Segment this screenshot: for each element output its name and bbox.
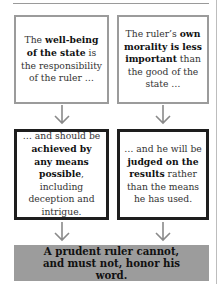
premise-box-morality: The ruler’s own morality is less importa… <box>117 15 209 104</box>
top-divider-line <box>13 3 209 4</box>
right-divider-line <box>216 0 217 284</box>
arrow-down-icon <box>155 222 171 242</box>
consequence-text-means: … and should be achieved by any means po… <box>17 130 106 218</box>
premise-text-wellbeing: The well-being of the state is the respo… <box>16 34 107 84</box>
consequence-box-means: … and should be achieved by any means po… <box>14 129 109 220</box>
premise-box-wellbeing: The well-being of the state is the respo… <box>14 15 109 104</box>
consequence-text-results: … and he will be judged on the results r… <box>120 143 206 206</box>
premise-text-morality: The ruler’s own morality is less importa… <box>119 28 207 91</box>
consequence-box-results: … and he will be judged on the results r… <box>117 129 209 220</box>
arrow-down-icon <box>155 105 171 125</box>
conclusion-box: A prudent ruler cannot, and must not, ho… <box>14 245 209 281</box>
arrow-down-icon <box>54 222 70 242</box>
arrow-down-icon <box>54 105 70 125</box>
conclusion-text: A prudent ruler cannot, and must not, ho… <box>37 245 187 281</box>
